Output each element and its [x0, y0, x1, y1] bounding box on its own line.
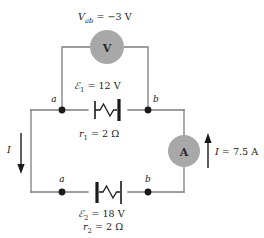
current-right-value: 7.5 A [233, 146, 259, 157]
node-dot-b-top [145, 107, 152, 114]
resistance-top-equals: = [88, 128, 102, 139]
voltmeter-lead-right [124, 47, 148, 110]
emf-top-annotation: ℰ1 = 12 V [74, 80, 122, 94]
current-label-left: I [6, 144, 11, 155]
battery-top [95, 99, 119, 121]
node-label-b-top: b [153, 94, 159, 104]
resistance-bottom-value: 2 Ω [106, 221, 123, 232]
battery-top-zigzag [95, 104, 117, 116]
emf-bottom-annotation: ℰ2 = 18 V [78, 208, 126, 222]
current-arrow-left [17, 133, 24, 174]
node-dot-a-bottom [59, 189, 66, 196]
emf-bottom-equals: = [88, 208, 102, 219]
current-arrow-right [204, 133, 211, 168]
emf-top-value: 12 V [98, 80, 121, 91]
voltmeter[interactable]: V [90, 30, 124, 64]
terminal-voltage-subscript: ab [85, 17, 93, 25]
terminal-voltage-equals: = [93, 11, 107, 22]
battery-bottom-zigzag [99, 186, 120, 198]
current-arrow-left-head [17, 164, 24, 174]
voltmeter-lead-left [62, 47, 90, 110]
node-dot-a-top [59, 107, 66, 114]
circuit-wires [31, 47, 184, 192]
voltmeter-label: V [102, 42, 112, 55]
current-arrow-right-head [204, 133, 211, 143]
battery-bottom [97, 181, 121, 204]
emf-bottom-value: 18 V [102, 208, 125, 219]
resistance-bottom-equals: = [92, 221, 106, 232]
circuit-diagram: V A a b a b [0, 0, 264, 238]
node-label-a-top: a [51, 94, 56, 104]
emf-top-equals: = [84, 80, 98, 91]
terminal-voltage-value: −3 V [107, 11, 132, 22]
current-right-annotation: I = 7.5 A [214, 146, 259, 157]
node-label-a-bottom: a [59, 174, 64, 184]
terminal-voltage-annotation: Vab = −3 V [78, 11, 133, 25]
ammeter-label: A [179, 146, 189, 159]
resistance-bottom-annotation: r2 = 2 Ω [83, 221, 123, 235]
node-dot-b-bottom [145, 189, 152, 196]
resistance-top-value: 2 Ω [102, 128, 119, 139]
current-right-equals: = [219, 146, 233, 157]
ammeter[interactable]: A [168, 135, 200, 167]
circuit-nodes [59, 107, 152, 196]
resistance-top-annotation: r1 = 2 Ω [79, 128, 119, 142]
node-label-b-bottom: b [145, 174, 151, 184]
